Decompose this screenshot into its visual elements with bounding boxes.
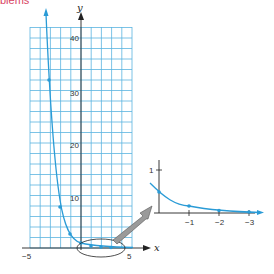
curve-arrow-icon [44, 8, 49, 16]
x-axis-arrow-icon [143, 245, 151, 251]
inset-x-tick-2: −2 [215, 218, 225, 227]
y-tick-20: 20 [70, 141, 79, 150]
inset-curve [150, 183, 260, 213]
x-tick-max: 5 [127, 252, 132, 261]
y-axis-label: y [76, 2, 83, 13]
inset-curve-points [157, 190, 251, 214]
inset-axes [154, 160, 255, 216]
main-curve [46, 14, 133, 248]
y-tick-40: 40 [70, 34, 79, 43]
exponential-chart: y x −5 5 10 20 30 40 1 −1 −2 −3 [0, 0, 274, 274]
callout-arrow-icon [113, 206, 152, 244]
y-axis-arrow-icon [78, 12, 84, 20]
inset-x-tick-3: −3 [245, 218, 255, 227]
x-axis-label: x [154, 242, 160, 253]
inset-curve-arrow-icon [257, 210, 264, 215]
inset-y-tick-1: 1 [149, 166, 154, 175]
inset-x-tick-1: −1 [185, 218, 195, 227]
x-tick-min: −5 [22, 252, 32, 261]
y-tick-10: 10 [70, 194, 79, 203]
y-tick-30: 30 [70, 89, 79, 98]
